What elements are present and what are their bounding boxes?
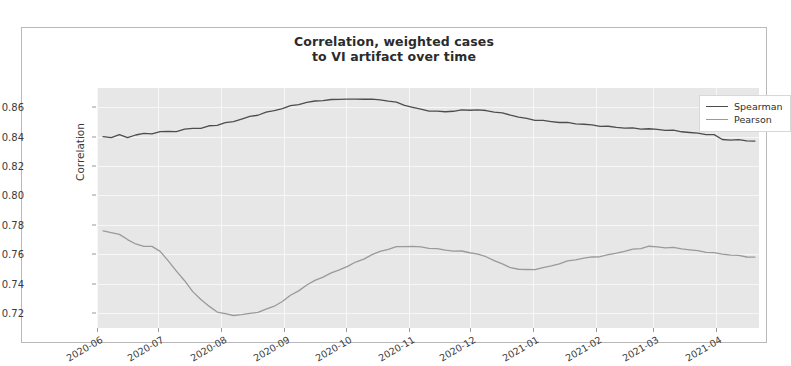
legend-swatch-spearman	[706, 106, 728, 107]
x-tick-mark	[596, 328, 597, 332]
figure-frame: Correlation, weighted cases to VI artifa…	[21, 27, 767, 343]
x-tick-mark	[284, 328, 285, 332]
chart-legend: SpearmanPearson	[699, 95, 791, 132]
legend-label: Spearman	[734, 101, 783, 112]
x-tick-label: 2020-07	[119, 334, 166, 366]
legend-swatch-pearson	[706, 119, 728, 120]
x-tick-label: 2020-12	[430, 334, 477, 366]
x-tick-label: 2021-01	[493, 334, 540, 366]
x-tick-label: 2020-11	[369, 334, 416, 366]
x-tick-label: 2021-03	[614, 334, 661, 366]
x-tick-mark	[533, 328, 534, 332]
legend-entry-spearman[interactable]: Spearman	[706, 100, 783, 113]
y-tick-label: 0.86	[0, 102, 24, 113]
y-tick-mark	[92, 166, 96, 167]
y-tick-mark	[92, 283, 96, 284]
y-tick-mark	[92, 195, 96, 196]
x-tick-label: 2020-10	[306, 334, 353, 366]
y-tick-label: 0.84	[0, 131, 24, 142]
x-tick-mark	[470, 328, 471, 332]
series-lines	[97, 88, 759, 328]
x-tick-mark	[346, 328, 347, 332]
x-tick-label: 2020-09	[245, 334, 292, 366]
x-tick-mark	[716, 328, 717, 332]
plot-area	[97, 88, 759, 328]
chart-title-line-2: to VI artifact over time	[22, 49, 766, 64]
x-tick-mark	[409, 328, 410, 332]
x-tick-mark	[97, 328, 98, 332]
x-tick-mark	[653, 328, 654, 332]
series-line-spearman	[103, 99, 755, 141]
x-tick-label: 2021-02	[556, 334, 603, 366]
x-tick-label: 2020-06	[57, 334, 104, 366]
x-tick-mark	[158, 328, 159, 332]
legend-label: Pearson	[734, 114, 772, 125]
y-tick-mark	[92, 136, 96, 137]
legend-entry-pearson[interactable]: Pearson	[706, 113, 783, 126]
x-tick-label: 2021-04	[677, 334, 724, 366]
y-tick-label: 0.80	[0, 190, 24, 201]
y-tick-label: 0.74	[0, 278, 24, 289]
y-tick-mark	[92, 313, 96, 314]
chart-title: Correlation, weighted cases to VI artifa…	[22, 34, 766, 64]
y-tick-label: 0.78	[0, 219, 24, 230]
y-tick-label: 0.72	[0, 308, 24, 319]
y-tick-label: 0.76	[0, 249, 24, 260]
series-line-pearson	[103, 231, 755, 316]
x-tick-label: 2020-08	[182, 334, 229, 366]
y-tick-mark	[92, 224, 96, 225]
y-tick-label: 0.82	[0, 161, 24, 172]
x-tick-mark	[221, 328, 222, 332]
y-tick-mark	[92, 107, 96, 108]
y-tick-mark	[92, 254, 96, 255]
chart-title-line-1: Correlation, weighted cases	[22, 34, 766, 49]
y-axis-label: Correlation	[74, 72, 86, 232]
